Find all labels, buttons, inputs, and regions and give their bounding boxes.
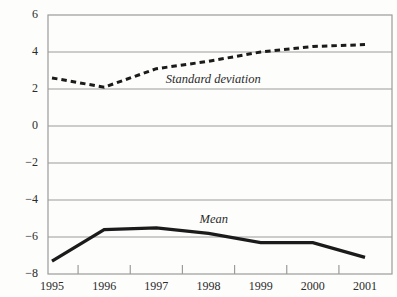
x-tick-label-2000: 2000 <box>301 279 325 293</box>
x-tick-label-2001: 2001 <box>353 279 377 293</box>
x-tick-label-1996: 1996 <box>92 279 116 293</box>
series-line-mean <box>52 228 365 261</box>
y-tick-label--2: −2 <box>25 155 38 169</box>
y-tick-label-2: 2 <box>32 81 38 95</box>
y-tick-label--8: −8 <box>25 266 38 280</box>
y-tick-label-6: 6 <box>32 7 38 21</box>
y-tick-label-0: 0 <box>32 118 38 132</box>
x-tick-label-1997: 1997 <box>144 279 168 293</box>
line-chart: 6420−2−4−6−81995199619971998199920002001… <box>0 0 397 297</box>
x-tick-label-1999: 1999 <box>249 279 273 293</box>
chart-figure: 6420−2−4−6−81995199619971998199920002001… <box>0 0 397 297</box>
annotation-standard-deviation: Standard deviation <box>166 72 261 86</box>
x-tick-label-1995: 1995 <box>40 279 64 293</box>
y-tick-label--6: −6 <box>25 229 38 243</box>
y-tick-label--4: −4 <box>25 192 38 206</box>
x-tick-label-1998: 1998 <box>197 279 221 293</box>
annotation-mean: Mean <box>198 212 227 226</box>
y-tick-label-4: 4 <box>32 44 38 58</box>
